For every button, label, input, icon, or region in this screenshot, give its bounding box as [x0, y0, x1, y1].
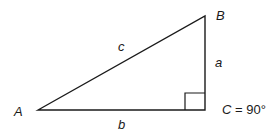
- right-angle-annotation: C = 90°: [222, 103, 266, 116]
- side-label-a: a: [215, 56, 222, 69]
- right-angle-marker: [185, 93, 205, 110]
- triangle-outline: [38, 16, 205, 110]
- vertex-label-b: B: [216, 9, 225, 22]
- angle-var-c: C: [222, 102, 231, 117]
- angle-value: = 90°: [231, 102, 265, 117]
- side-label-b: b: [118, 118, 125, 131]
- side-label-c: c: [118, 40, 125, 53]
- vertex-label-a: A: [14, 105, 23, 118]
